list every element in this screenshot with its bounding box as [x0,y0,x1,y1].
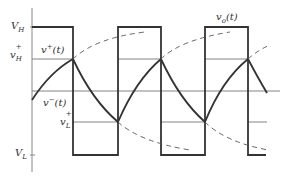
label-v-H-plus-sub: H [16,55,22,63]
label-v-plus-arg: (t) [53,44,65,55]
label-V-L-sub: L [22,153,27,161]
label-v-plus-t: v+(t) [41,44,64,55]
label-v-o-t: vo(t) [216,12,238,25]
label-V-H: VH [11,21,24,34]
label-v-L-plus: v+L [60,117,70,130]
label-V-L: VL [15,148,27,161]
waveform-diagram [0,0,283,177]
label-v-minus-arg: (t) [55,97,67,108]
label-V-H-sub: H [18,26,24,34]
label-v-o-arg: (t) [226,11,238,22]
label-v-minus-t: v−(t) [43,97,66,108]
label-v-H-plus: v+H [10,50,22,63]
label-v-H-plus-sup: + [16,44,22,51]
label-v-L-plus-sub: L [66,122,71,130]
label-v-L-plus-sup: + [66,111,72,118]
